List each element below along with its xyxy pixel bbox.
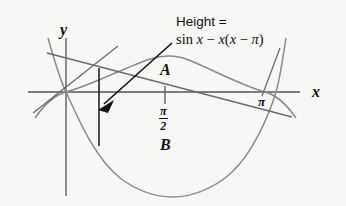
half-pi-numerator: π — [159, 105, 168, 118]
tick-label-half-pi: π 2 — [159, 105, 168, 132]
y-axis-label: y — [60, 22, 67, 38]
x-axis-label: x — [312, 84, 320, 100]
callout-label: Height = sin x − x(x − π) — [176, 13, 264, 49]
callout-sin: sin — [176, 31, 193, 47]
callout-minus-2: − — [240, 31, 248, 47]
callout-x1: x — [197, 31, 203, 47]
callout-pi: π — [252, 31, 259, 47]
figure-container: Height = sin x − x(x − π) y x A B π 2 π — [0, 0, 346, 206]
callout-minus-1: − — [207, 31, 215, 47]
region-label-b: B — [160, 137, 171, 153]
callout-paren-close: ) — [259, 31, 264, 47]
diagram-canvas — [0, 0, 346, 206]
callout-x3: x — [230, 31, 236, 47]
region-label-a: A — [160, 62, 171, 78]
half-pi-denominator: 2 — [159, 120, 168, 133]
tick-label-pi: π — [258, 95, 265, 108]
callout-line-2: sin x − x(x − π) — [176, 30, 264, 49]
callout-line-1: Height = — [176, 13, 264, 30]
